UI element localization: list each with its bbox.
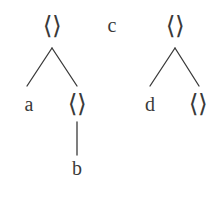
tree-edge xyxy=(52,48,77,86)
tree-node-bracket: ⟨⟩ xyxy=(189,91,208,116)
tree-edge xyxy=(27,48,52,86)
diagram-canvas: ⟨⟩a⟨⟩bc⟨⟩d⟨⟩ xyxy=(0,0,224,211)
tree-node-terminal: d xyxy=(145,94,155,114)
tree-node-terminal: b xyxy=(72,158,82,178)
tree-node-terminal: a xyxy=(25,94,34,114)
tree-edge xyxy=(150,48,175,86)
tree-node-bracket: ⟨⟩ xyxy=(43,13,62,38)
tree-node-bracket: ⟨⟩ xyxy=(166,13,185,38)
tree-node-terminal: c xyxy=(108,15,117,35)
tree-node-bracket: ⟨⟩ xyxy=(68,91,87,116)
tree-edge xyxy=(175,48,199,86)
edge-group xyxy=(27,48,199,155)
